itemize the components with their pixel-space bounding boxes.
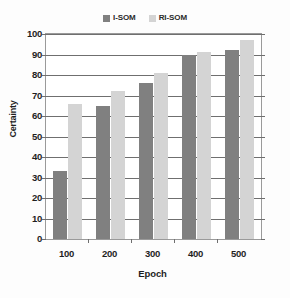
x-axis-tick-500: 500 — [217, 248, 261, 259]
bar-ri-som-100 — [68, 104, 82, 239]
bar-ri-som-200 — [111, 91, 125, 239]
x-axis-tick-100: 100 — [45, 248, 89, 259]
y-axis-tick-30: 30 — [16, 171, 42, 182]
x-axis-tick-300: 300 — [131, 248, 175, 259]
y-axis-tick-10: 10 — [16, 212, 42, 223]
bar-i-som-300 — [139, 83, 153, 239]
x-tick-mark — [174, 239, 175, 243]
legend-entry-i-som: I-SOM — [103, 14, 136, 22]
bar-group-100 — [46, 34, 89, 239]
y-axis-tick-80: 80 — [16, 69, 42, 80]
plot-area — [45, 33, 262, 240]
bar-group-400 — [175, 34, 218, 239]
y-tick-mark-right — [261, 178, 265, 179]
legend-swatch-i-som — [103, 15, 110, 22]
bar-i-som-500 — [225, 50, 239, 239]
y-tick-mark-right — [261, 157, 265, 158]
x-axis-tick-200: 200 — [88, 248, 132, 259]
y-axis-tick-90: 90 — [16, 48, 42, 59]
x-axis-tick-400: 400 — [174, 248, 218, 259]
bar-ri-som-400 — [197, 52, 211, 239]
y-tick-mark-right — [261, 198, 265, 199]
y-tick-mark-right — [261, 55, 265, 56]
y-axis-tick-0: 0 — [16, 233, 42, 244]
y-axis-tick-100: 100 — [16, 28, 42, 39]
y-tick-mark-right — [261, 137, 265, 138]
y-axis-tick-50: 50 — [16, 130, 42, 141]
y-axis-tick-70: 70 — [16, 89, 42, 100]
x-tick-mark — [217, 239, 218, 243]
bar-series-container — [46, 34, 261, 239]
bar-i-som-200 — [96, 106, 110, 239]
bar-i-som-400 — [182, 55, 196, 240]
y-tick-mark-right — [261, 116, 265, 117]
chart-legend: I-SOM RI-SOM — [0, 11, 290, 25]
bar-group-500 — [218, 34, 261, 239]
y-axis-tick-labels: 1009080706050403020100 — [16, 0, 42, 298]
legend-label-ri-som: RI-SOM — [159, 14, 187, 22]
bar-i-som-100 — [53, 171, 67, 239]
y-tick-mark-right — [261, 219, 265, 220]
y-axis-tick-40: 40 — [16, 151, 42, 162]
bar-group-300 — [132, 34, 175, 239]
y-tick-mark-right — [261, 75, 265, 76]
x-tick-mark — [131, 239, 132, 243]
legend-entry-ri-som: RI-SOM — [149, 14, 187, 22]
x-axis-tick-labels: 100200300400500 — [45, 239, 260, 263]
y-axis-tick-60: 60 — [16, 110, 42, 121]
x-axis-title: Epoch — [45, 268, 260, 279]
y-tick-mark-right — [261, 34, 265, 35]
x-tick-mark — [88, 239, 89, 243]
legend-label-i-som: I-SOM — [113, 14, 136, 22]
y-tick-mark-right — [261, 96, 265, 97]
bar-ri-som-500 — [240, 40, 254, 239]
bar-group-200 — [89, 34, 132, 239]
y-tick-mark-right — [261, 239, 265, 240]
chart-figure: I-SOM RI-SOM Certainty 10090807060504030… — [0, 0, 290, 298]
legend-swatch-ri-som — [149, 15, 156, 22]
y-axis-tick-20: 20 — [16, 192, 42, 203]
bar-ri-som-300 — [154, 73, 168, 239]
